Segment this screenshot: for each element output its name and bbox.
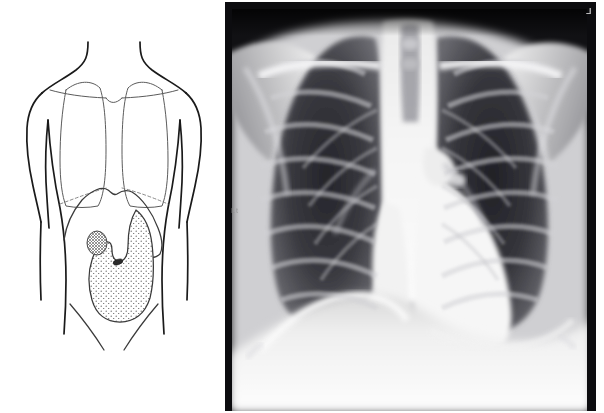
film-top-edge xyxy=(225,2,596,9)
neck-left-contour xyxy=(42,42,88,93)
right-shoulder-arm xyxy=(186,93,201,222)
left-torso-flank xyxy=(48,120,66,334)
gallbladder xyxy=(87,231,107,255)
vertebra-shadow-1 xyxy=(401,38,419,50)
xray-panel: L Lt xyxy=(225,2,596,411)
film-right-border xyxy=(587,2,596,411)
left-lung-field xyxy=(122,82,168,207)
left-shoulder-arm xyxy=(27,93,42,222)
edge-marker-label: Lt xyxy=(231,207,239,214)
sternal-notch xyxy=(106,98,122,103)
anatomical-diagram xyxy=(0,0,222,413)
diaphragm-dome xyxy=(60,188,168,204)
diagram-panel xyxy=(0,0,222,413)
left-clavicle xyxy=(122,90,178,98)
right-clavicle xyxy=(50,90,106,98)
vertebra-shadow-2 xyxy=(401,58,419,70)
stomach xyxy=(89,210,153,322)
left-arm-outer-lower xyxy=(40,222,41,300)
neck-right-contour xyxy=(140,42,186,93)
right-torso-flank xyxy=(162,120,180,334)
right-arm-outer-lower xyxy=(187,222,188,300)
side-marker-label: L xyxy=(585,6,592,16)
left-hilar-opacity xyxy=(448,173,466,187)
figure-container: L Lt xyxy=(0,0,604,413)
chest-radiograph xyxy=(225,2,596,411)
